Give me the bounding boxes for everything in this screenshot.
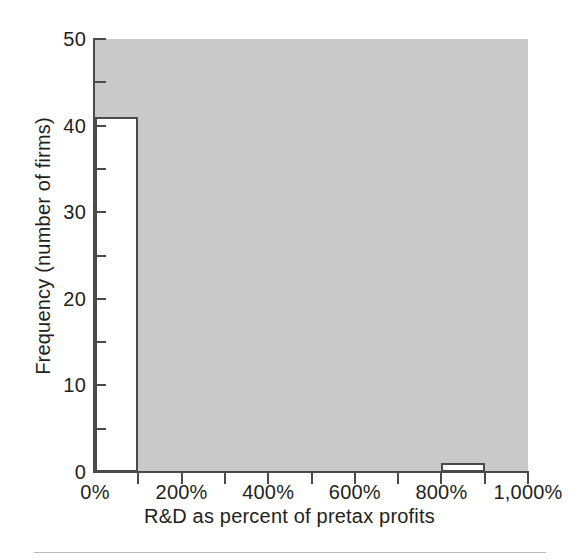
x-axis-tick-label: 600% — [329, 481, 381, 503]
y-axis-minor-tick — [95, 428, 106, 430]
x-axis-minor-tick — [397, 473, 399, 484]
footer-rule — [34, 552, 546, 553]
y-axis-minor-tick — [95, 255, 106, 257]
histogram-bar — [95, 117, 138, 472]
x-axis-tick-label: 200% — [156, 481, 208, 503]
x-axis-minor-tick — [484, 473, 486, 484]
y-axis-major-tick — [95, 384, 106, 386]
x-axis-tick-label: 1,000% — [493, 481, 562, 503]
y-axis-major-tick — [95, 298, 106, 300]
y-axis-minor-tick — [95, 168, 106, 170]
x-axis-title: R&D as percent of pretax profits — [0, 505, 579, 527]
x-axis-minor-tick — [224, 473, 226, 484]
x-axis-tick-label: 800% — [415, 481, 467, 503]
x-axis-minor-tick — [311, 473, 313, 484]
y-axis-major-tick — [95, 211, 106, 213]
y-axis-major-tick — [95, 38, 106, 40]
x-axis-tick-label: 0% — [80, 481, 109, 503]
x-axis-tick-label: 400% — [242, 481, 294, 503]
x-axis-minor-tick — [137, 473, 139, 484]
y-axis-minor-tick — [95, 341, 106, 343]
histogram-figure: 01020304050 0%200%400%600%800%1,000% Fre… — [0, 0, 579, 560]
y-axis-major-tick — [95, 125, 106, 127]
y-axis-title: Frequency (number of firms) — [32, 46, 54, 446]
y-axis-tick-label: 0 — [40, 462, 86, 482]
y-axis-minor-tick — [95, 81, 106, 83]
plot-area — [95, 39, 528, 472]
